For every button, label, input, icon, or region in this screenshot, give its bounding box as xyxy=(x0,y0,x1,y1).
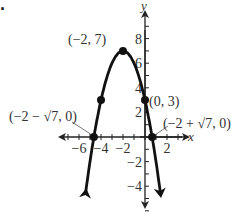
x-tick-label: 2 xyxy=(164,141,171,156)
right-root-label: (−2 + √7, 0) xyxy=(163,116,231,132)
y-tick-label: −4 xyxy=(127,179,142,194)
y-tick-label: 8 xyxy=(135,32,142,47)
vertex-label: (−2, 7) xyxy=(68,32,107,48)
y-intercept-label: (0, 3) xyxy=(149,94,180,110)
plotted-point xyxy=(141,96,149,104)
parabola-curve xyxy=(86,51,161,193)
parabola-graph: −6−4−22−4−22468 x y (−2, 7) (0, 3) (−2 −… xyxy=(0,0,240,216)
x-tick-label: −4 xyxy=(94,141,109,156)
plotted-point xyxy=(148,133,156,141)
plotted-point xyxy=(119,47,127,55)
y-axis-label: y xyxy=(139,0,147,13)
left-root-label: (−2 − √7, 0) xyxy=(9,109,77,125)
tick-labels: −6−4−22−4−22468 xyxy=(72,32,171,195)
y-tick-label: 2 xyxy=(135,105,142,120)
plotted-point xyxy=(90,133,98,141)
plotted-point xyxy=(97,96,105,104)
labeled-points xyxy=(90,47,156,141)
y-tick-label: −2 xyxy=(127,155,142,170)
x-tick-label: −6 xyxy=(72,141,87,156)
x-axis-label: x xyxy=(187,129,194,144)
